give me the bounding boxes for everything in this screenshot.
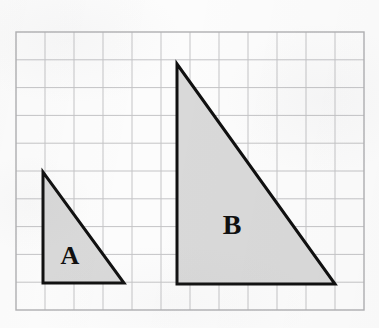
triangle-a-label: A [61, 241, 80, 270]
triangle-b-shape [177, 64, 335, 284]
triangle-b-label: B [223, 209, 242, 240]
grid-figure-canvas: A B [0, 0, 379, 328]
triangle-a-shape [43, 172, 124, 283]
figure-container: A B [0, 0, 379, 328]
